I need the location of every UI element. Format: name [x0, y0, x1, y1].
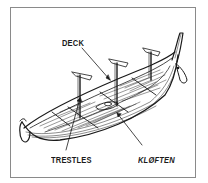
- label-deck: DECK: [62, 38, 84, 48]
- kloften-leader: [117, 113, 142, 145]
- viking-ship-illustration: [0, 0, 208, 183]
- label-kloften: KLØFTEN: [138, 155, 175, 165]
- label-trestles: TRESTLES: [51, 155, 92, 165]
- gunwale-top: [24, 52, 175, 128]
